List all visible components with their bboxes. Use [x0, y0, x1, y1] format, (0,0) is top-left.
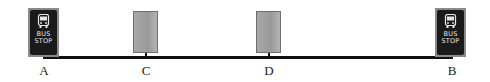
point-label-d: D: [264, 63, 273, 79]
bus-icon: [37, 14, 50, 29]
point-label-a: A: [39, 63, 48, 79]
building-d: [256, 11, 281, 53]
point-label-b: B: [448, 63, 457, 79]
building-c: [133, 11, 158, 53]
sign-text-line-2: STOP: [35, 38, 53, 45]
building-c-stem: [145, 53, 147, 57]
bus-icon: [444, 14, 457, 29]
point-label-c: C: [142, 63, 151, 79]
building-d-stem: [268, 53, 270, 57]
bus-stop-sign-b: BUS STOP: [435, 8, 466, 57]
sign-panel: BUS STOP: [30, 10, 57, 55]
sign-text-line-2: STOP: [442, 38, 460, 45]
road-line: [43, 56, 453, 59]
sign-panel: BUS STOP: [437, 10, 464, 55]
bus-stop-sign-a: BUS STOP: [28, 8, 59, 57]
